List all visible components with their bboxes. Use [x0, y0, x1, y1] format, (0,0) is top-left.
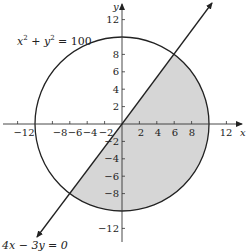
svg-text:−6: −6	[104, 171, 119, 182]
svg-text:2: 2	[138, 127, 144, 138]
svg-text:8: 8	[189, 127, 195, 138]
svg-text:12: 12	[106, 14, 119, 25]
y-axis-label: y	[112, 1, 119, 12]
svg-text:−12: −12	[98, 223, 119, 234]
svg-text:6: 6	[172, 127, 178, 138]
svg-text:8: 8	[113, 49, 119, 60]
svg-text:−6: −6	[68, 127, 83, 138]
svg-text:−4: −4	[83, 127, 98, 138]
svg-text:−8: −8	[104, 188, 119, 199]
svg-text:4: 4	[113, 84, 119, 95]
svg-text:−8: −8	[53, 127, 68, 138]
svg-text:2: 2	[113, 101, 119, 112]
svg-text:6: 6	[113, 66, 119, 77]
x-axis-label: x	[240, 127, 246, 138]
svg-text:−12: −12	[13, 127, 34, 138]
svg-text:−4: −4	[104, 153, 119, 164]
circle-equation-label: x2 + y2 = 100	[17, 34, 92, 48]
svg-text:−2: −2	[104, 136, 119, 147]
line-equation-label: 4x − 3y = 0	[1, 239, 68, 251]
svg-text:12: 12	[220, 127, 233, 138]
svg-text:4: 4	[155, 127, 161, 138]
diagram-canvas: −12 −8 −6 −4 −2 2 4 6 8 12 x 12 8 6 4 2 …	[0, 0, 247, 251]
